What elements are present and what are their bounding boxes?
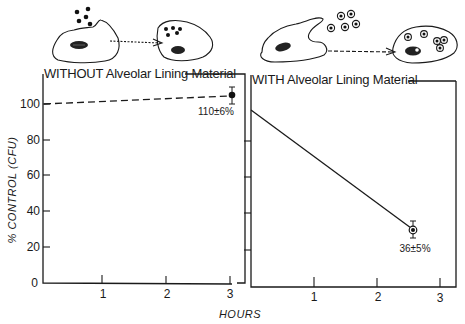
illustration-with-lining bbox=[261, 10, 458, 63]
cell-outline-icon bbox=[393, 26, 458, 63]
cell-outline-icon bbox=[157, 20, 213, 60]
data-annotation: 36±5% bbox=[399, 243, 430, 254]
cell-outline-icon bbox=[261, 18, 327, 62]
y-axis-title: % CONTROL (CFU) bbox=[6, 137, 18, 244]
figure: WITHOUT Alveolar Lining Material 100 80 … bbox=[0, 0, 465, 324]
panel-title: WITHOUT Alveolar Lining Material bbox=[44, 66, 236, 81]
panel-with-lining: WITH Alveolar Lining Material 1 2 3 36±5… bbox=[244, 72, 456, 305]
coated-particle-icons bbox=[327, 10, 359, 31]
x-axis-title: HOURS bbox=[219, 308, 261, 320]
illustration-without-lining bbox=[53, 7, 213, 63]
ingested-particle-icons bbox=[164, 26, 182, 37]
x-tick-label: 2 bbox=[375, 290, 382, 304]
x-tick-label: 1 bbox=[100, 287, 107, 301]
x-tick-label: 3 bbox=[437, 291, 444, 305]
nucleus-icon bbox=[274, 41, 292, 53]
panel-frame bbox=[251, 75, 456, 287]
x-tick-label: 3 bbox=[227, 287, 234, 301]
panel-without-lining: WITHOUT Alveolar Lining Material 100 80 … bbox=[20, 66, 245, 301]
y-tick-label: 40 bbox=[27, 204, 41, 218]
x-axis bbox=[102, 275, 230, 284]
y-tick-label: 20 bbox=[27, 240, 41, 254]
nucleus-icon bbox=[171, 46, 185, 54]
arrow-icon bbox=[328, 51, 393, 52]
y-tick-label: 80 bbox=[27, 133, 41, 147]
cell-outline-icon bbox=[53, 20, 119, 63]
x-tick-label: 2 bbox=[164, 287, 171, 301]
data-line-solid bbox=[251, 110, 411, 228]
y-tick-label: 0 bbox=[31, 276, 38, 290]
y-axis bbox=[43, 104, 50, 247]
data-point-marker bbox=[229, 92, 236, 99]
data-annotation: 110±6% bbox=[198, 106, 234, 117]
y-tick-label: 100 bbox=[20, 97, 40, 111]
x-tick-label: 1 bbox=[311, 290, 318, 304]
panel-title: WITH Alveolar Lining Material bbox=[252, 72, 418, 87]
x-axis bbox=[314, 277, 440, 287]
y-tick-label: 60 bbox=[27, 168, 41, 182]
particle-icons bbox=[75, 7, 93, 27]
data-line-dashed bbox=[44, 96, 228, 104]
arrow-icon bbox=[110, 41, 160, 43]
nucleus-icon bbox=[405, 47, 421, 56]
